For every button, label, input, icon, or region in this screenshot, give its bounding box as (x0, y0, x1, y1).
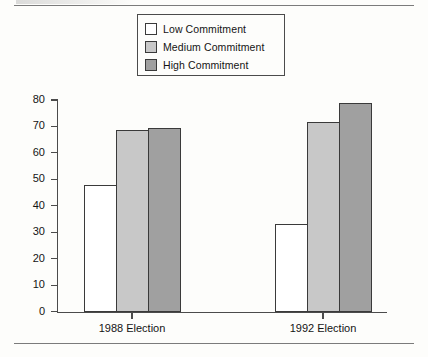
figure-bar-chart: Low Commitment Medium Commitment High Co… (0, 0, 428, 357)
y-axis-tick-label: 70 (17, 120, 45, 131)
bar-1992-medium (307, 122, 340, 311)
y-axis-tick-label: 40 (17, 200, 45, 211)
y-axis-tick-label: 0 (17, 306, 45, 317)
y-axis-tick (51, 205, 58, 206)
x-axis-category-label: 1992 Election (273, 322, 373, 335)
bar-1992-low (275, 224, 308, 311)
y-axis-tick (51, 152, 58, 153)
bar-1988-low (84, 185, 117, 312)
y-axis-tick (51, 311, 58, 312)
y-axis-tick-label: 60 (17, 147, 45, 158)
x-axis-tick (322, 312, 323, 319)
x-axis-tick (131, 312, 132, 319)
x-axis-line (57, 312, 387, 313)
y-axis-tick (51, 126, 58, 127)
y-axis-tick (51, 99, 58, 100)
y-axis-tick-label: 50 (17, 173, 45, 184)
y-axis-tick-label: 20 (17, 253, 45, 264)
y-axis-tick (51, 258, 58, 259)
y-axis-tick (51, 285, 58, 286)
x-axis-category-label: 1988 Election (82, 322, 182, 335)
plot-area: 01020304050607080 1988 Election1992 Elec… (0, 0, 428, 357)
y-axis-tick-label: 10 (17, 279, 45, 290)
y-axis-tick (51, 232, 58, 233)
y-axis-tick-label: 30 (17, 226, 45, 237)
bar-1988-medium (116, 130, 149, 311)
y-axis-tick-label: 80 (17, 94, 45, 105)
bar-1988-high (148, 128, 181, 312)
bar-1992-high (339, 103, 372, 312)
y-axis-tick (51, 179, 58, 180)
